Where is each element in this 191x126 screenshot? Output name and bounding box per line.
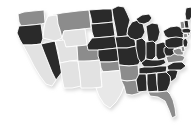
state-ND[interactable] [89, 9, 113, 24]
state-AZ[interactable] [60, 61, 81, 88]
state-FL[interactable] [148, 91, 176, 118]
state-IN[interactable] [146, 41, 156, 60]
state-NH[interactable] [184, 20, 189, 28]
state-WY[interactable] [62, 29, 87, 47]
state-AR[interactable] [119, 65, 139, 81]
state-OR[interactable] [17, 24, 43, 45]
states-layer [17, 6, 191, 118]
us-choropleth-map [0, 0, 191, 126]
state-SD[interactable] [91, 22, 115, 38]
map-svg [0, 0, 191, 126]
state-MS[interactable] [136, 74, 147, 92]
state-ME[interactable] [185, 7, 191, 20]
state-NE[interactable] [87, 36, 117, 50]
state-AL[interactable] [147, 73, 158, 92]
state-NM[interactable] [78, 60, 102, 88]
state-KS[interactable] [98, 48, 119, 62]
state-NC[interactable] [167, 62, 186, 70]
state-NJ[interactable] [183, 38, 188, 47]
